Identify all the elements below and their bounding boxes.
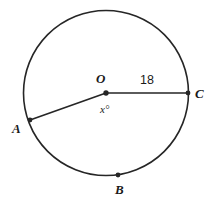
point-c-marker — [186, 91, 191, 96]
label-point-c: C — [195, 87, 204, 100]
label-point-a: A — [12, 122, 21, 135]
label-radius-length: 18 — [140, 74, 154, 87]
geometry-diagram: O C A B x° 18 — [0, 0, 216, 207]
label-angle-x: x° — [100, 104, 109, 115]
radius-segment-oa — [30, 93, 106, 120]
center-point-o-marker — [103, 90, 108, 95]
point-a-marker — [28, 118, 33, 123]
label-point-b: B — [115, 183, 124, 196]
label-center-o: O — [96, 72, 105, 85]
point-b-marker — [116, 173, 121, 178]
